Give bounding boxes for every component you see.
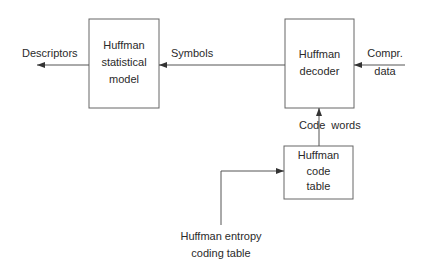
- descriptors-label: Descriptors: [22, 45, 78, 62]
- code-words-label: Codewords: [288, 117, 368, 134]
- decoder-label: Huffman decoder: [285, 46, 354, 80]
- code-table-label: Huffman code table: [284, 148, 353, 195]
- compressed-data-label: Compr. data: [362, 45, 408, 80]
- statistical-model-label: Huffman statistical model: [89, 37, 159, 88]
- entropy-table-arrow: [221, 171, 284, 225]
- symbols-label: Symbols: [171, 45, 213, 62]
- entropy-coding-table-label: Huffman entropy coding table: [168, 228, 274, 262]
